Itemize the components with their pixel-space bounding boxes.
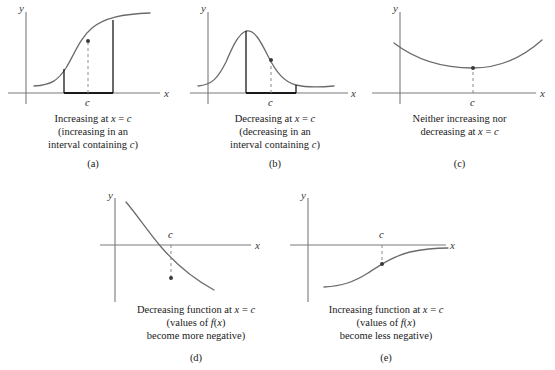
- graph-d: y x c: [96, 190, 296, 305]
- caption-line: (decreasing in an: [182, 125, 368, 138]
- panel-b: y x c Decreasing at x = c (decreasing in…: [182, 0, 368, 170]
- panel-label-e: (e): [286, 352, 486, 363]
- caption-b: Decreasing at x = c (decreasing in an in…: [182, 112, 368, 151]
- caption-line: Increasing function at x = c: [286, 303, 486, 316]
- graph-c: y x c: [364, 0, 555, 110]
- curve-increasing: [34, 13, 150, 86]
- caption-line: (values of f(x): [286, 316, 486, 329]
- caption-line: (increasing in an: [0, 125, 186, 138]
- caption-e: Increasing function at x = c (values of …: [286, 303, 486, 342]
- y-axis-label: y: [200, 2, 206, 14]
- caption-line: become more negative): [96, 329, 296, 342]
- y-axis-label: y: [300, 190, 306, 201]
- tick-label-c: c: [379, 229, 384, 240]
- panel-label-a: (a): [0, 158, 186, 169]
- tick-label-c: c: [85, 97, 90, 108]
- x-axis-label: x: [350, 87, 356, 99]
- point-at-c: [86, 39, 90, 43]
- panel-a: y x c Increasing at x = c (increasing in…: [0, 0, 186, 170]
- graph-e: y x c: [286, 190, 486, 305]
- caption-line: Increasing at x = c: [0, 112, 186, 125]
- panel-label-d: (d): [96, 352, 296, 363]
- caption-line: interval containing c): [0, 138, 186, 151]
- curve-bell: [198, 31, 334, 87]
- x-axis-label: x: [539, 87, 545, 99]
- figure-increasing-decreasing-functions: y x c Increasing at x = c (increasing in…: [0, 0, 555, 370]
- curve-parabola: [394, 40, 542, 68]
- caption-line: decreasing at x = c: [364, 125, 555, 138]
- panel-c: y x c Neither increasing nor decreasing …: [364, 0, 555, 170]
- point-at-c: [269, 58, 273, 62]
- panel-d: y x c Decreasing function at x = c (valu…: [96, 190, 296, 370]
- y-axis-label: y: [392, 2, 398, 14]
- y-axis-label: y: [107, 190, 113, 201]
- caption-line: Neither increasing nor: [364, 112, 555, 125]
- caption-d: Decreasing function at x = c (values of …: [96, 303, 296, 342]
- panel-label-c: (c): [364, 158, 555, 169]
- caption-line: Decreasing function at x = c: [96, 303, 296, 316]
- graph-b: y x c: [182, 0, 368, 110]
- caption-line: become less negative): [286, 329, 486, 342]
- x-axis-label: x: [254, 239, 260, 251]
- caption-line: (values of f(x): [96, 316, 296, 329]
- tick-label-c: c: [470, 97, 475, 108]
- caption-c: Neither increasing nor decreasing at x =…: [364, 112, 555, 138]
- panel-e: y x c Increasing function at x = c (valu…: [286, 190, 486, 370]
- caption-a: Increasing at x = c (increasing in an in…: [0, 112, 186, 151]
- panel-label-b: (b): [182, 158, 368, 169]
- x-axis-label: x: [163, 87, 169, 99]
- caption-line: interval containing c): [182, 138, 368, 151]
- x-axis-label: x: [449, 239, 455, 251]
- y-axis-label: y: [18, 2, 24, 14]
- point-at-c: [380, 262, 384, 266]
- tick-label-c: c: [268, 97, 273, 108]
- tick-label-c: c: [168, 229, 173, 240]
- curve-increasing-below-axis: [324, 248, 448, 287]
- graph-a: y x c: [0, 0, 186, 110]
- point-at-c: [169, 276, 173, 280]
- point-at-c: [471, 66, 475, 70]
- caption-line: Decreasing at x = c: [182, 112, 368, 125]
